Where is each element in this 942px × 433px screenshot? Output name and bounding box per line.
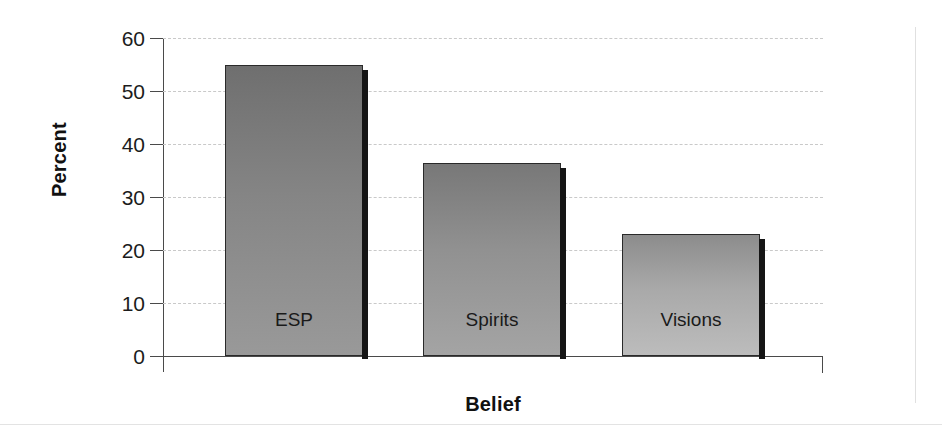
bar-shadow (759, 239, 765, 359)
y-axis-tick-label: 20 (122, 240, 145, 261)
page-panel-bottom-rule (0, 424, 942, 425)
bar-shadow (560, 168, 566, 359)
y-axis-title: Percent (48, 122, 71, 197)
y-axis-tick-label: 50 (122, 81, 145, 102)
bar-spirits[interactable]: Spirits (423, 163, 561, 356)
y-axis-tick (150, 144, 163, 145)
y-axis-zero-tick (163, 356, 164, 372)
bar-category-label: ESP (226, 310, 362, 329)
x-axis-spine (163, 356, 823, 357)
y-axis-tick (150, 250, 163, 251)
bar-shadow (362, 70, 368, 360)
bar-esp[interactable]: ESP (225, 65, 363, 357)
plot-area: 0102030405060 ESPSpiritsVisions (163, 38, 823, 356)
y-axis-tick-label: 10 (122, 293, 145, 314)
y-axis-tick-label: 0 (133, 346, 145, 367)
y-axis-tick (150, 91, 163, 92)
y-axis-tick (150, 197, 163, 198)
y-axis-tick (150, 38, 163, 39)
y-axis-tick-label: 40 (122, 134, 145, 155)
y-axis-tick (150, 356, 163, 357)
gridline (163, 38, 823, 39)
page-panel-right-rule (915, 27, 916, 403)
chart-screenshot: Percent 0102030405060 ESPSpiritsVisions … (0, 0, 942, 433)
y-axis-tick (150, 303, 163, 304)
y-axis-tick-label: 60 (122, 28, 145, 49)
y-axis-tick-label: 30 (122, 187, 145, 208)
bar-visions[interactable]: Visions (622, 234, 760, 356)
bar-category-label: Spirits (424, 310, 560, 329)
bar-category-label: Visions (623, 310, 759, 329)
x-axis-title: Belief (163, 393, 823, 416)
x-axis-end-tick (822, 356, 823, 373)
